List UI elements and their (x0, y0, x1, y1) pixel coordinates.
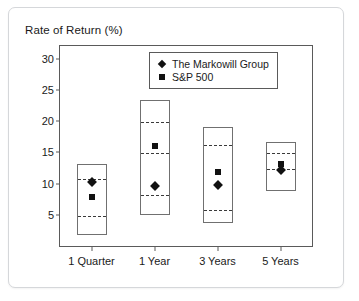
x-axis-tick-label: 5 Years (262, 255, 299, 267)
x-axis-tick-mark (154, 246, 155, 251)
y-axis-tick-label: 20 (42, 115, 54, 127)
chart-title: Rate of Return (%) (25, 24, 123, 36)
box-plot-divider (267, 153, 295, 154)
legend-item-label: The Markowill Group (172, 58, 269, 70)
x-axis-tick-mark (91, 246, 92, 251)
y-axis-tick-label: 10 (42, 178, 54, 190)
y-axis-tick-mark (56, 121, 60, 122)
data-point-square (152, 143, 158, 149)
x-axis-tick-mark (280, 246, 281, 251)
legend-item: The Markowill Group (156, 57, 269, 70)
y-axis-tick-mark (56, 214, 60, 215)
square-marker-icon (156, 74, 168, 80)
box-plot-divider (141, 195, 169, 196)
box-plot-divider (204, 210, 232, 211)
box-plot-box (203, 127, 233, 223)
y-axis-tick-label: 25 (42, 84, 54, 96)
data-point-square (278, 161, 284, 167)
x-axis-tick-mark (217, 246, 218, 251)
chart-legend: The Markowill GroupS&P 500 (149, 52, 278, 89)
box-plot-box (140, 100, 170, 215)
y-axis-tick-label: 15 (42, 146, 54, 158)
y-axis-tick-mark (56, 89, 60, 90)
legend-item-label: S&P 500 (172, 71, 213, 83)
y-axis-tick-mark (56, 152, 60, 153)
diamond-marker-icon (156, 61, 168, 67)
legend-item: S&P 500 (156, 70, 269, 83)
data-point-square (215, 169, 221, 175)
data-point-square (89, 194, 95, 200)
x-axis-tick-label: 3 Years (199, 255, 236, 267)
box-plot-divider (204, 145, 232, 146)
y-axis-tick-label: 5 (48, 209, 54, 221)
box-plot-divider (141, 122, 169, 123)
y-axis-tick-mark (56, 183, 60, 184)
box-plot-divider (78, 216, 106, 217)
x-axis-tick-label: 1 Quarter (68, 255, 114, 267)
y-axis-tick-mark (56, 58, 60, 59)
x-axis-tick-label: 1 Year (139, 255, 170, 267)
y-axis-tick-label: 30 (42, 53, 54, 65)
box-plot-divider (141, 153, 169, 154)
chart-card: Rate of Return (%) 510152025301 Quarter1… (8, 7, 344, 288)
